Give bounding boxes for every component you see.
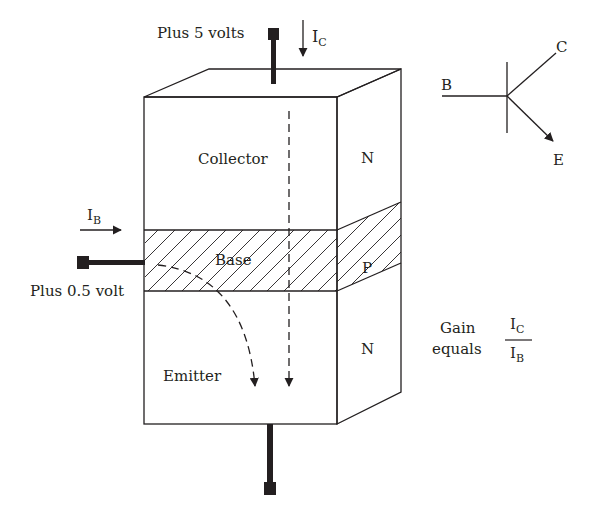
- base-region-label: Base: [215, 251, 252, 269]
- hatch-line: [301, 230, 362, 291]
- hatch-line: [250, 230, 311, 291]
- block-side-face: [337, 69, 401, 424]
- collector-region-label: Collector: [198, 150, 268, 168]
- hatch-line: [148, 230, 209, 291]
- hatch-line: [294, 200, 385, 291]
- collector-voltage-label: Plus 5 volts: [157, 24, 244, 42]
- hatch-line: [345, 200, 436, 291]
- collector-terminal: [268, 28, 279, 84]
- emitter-type-label: N: [361, 340, 374, 358]
- symbol-collector-label: C: [556, 38, 567, 56]
- collector-type-label: N: [361, 149, 374, 167]
- collector-current-label: IC: [312, 27, 327, 49]
- hatch-line: [379, 200, 470, 291]
- emitter-region-label: Emitter: [163, 367, 222, 385]
- gain-formula: Gain equals IC IB: [432, 315, 532, 365]
- hatch-line: [396, 200, 487, 291]
- emitter-terminal: [264, 424, 276, 495]
- base-current-label: IB: [87, 206, 101, 227]
- base-type-label: P: [362, 259, 372, 277]
- transistor-diagram: Plus 5 volts IC IB Plus 0.5 volt Collect…: [0, 0, 596, 517]
- gain-text-line1: Gain: [440, 319, 476, 337]
- gain-numerator: IC: [510, 315, 524, 336]
- hatch-line: [277, 200, 368, 291]
- base-terminal: [77, 256, 145, 269]
- symbol-emitter-label: E: [553, 151, 564, 169]
- symbol-base-label: B: [441, 76, 452, 94]
- hatch-line: [311, 200, 402, 291]
- transistor-symbol: B C E: [441, 38, 567, 169]
- base-voltage-label: Plus 0.5 volt: [30, 282, 124, 300]
- gain-text-line2: equals: [432, 340, 482, 358]
- gain-denominator: IB: [510, 344, 524, 365]
- hatch-line: [267, 230, 328, 291]
- hatch-line: [284, 230, 345, 291]
